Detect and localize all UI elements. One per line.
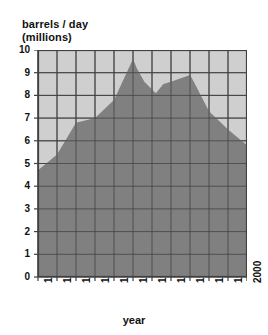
y-axis-tick-label: 5 <box>8 158 30 169</box>
y-axis-tick-label: 10 <box>8 44 30 55</box>
y-axis-tick-label: 1 <box>8 248 30 259</box>
y-axis-title-line2: (millions) <box>22 31 72 43</box>
y-axis-tick-label: 6 <box>8 135 30 146</box>
plot-area <box>33 50 242 277</box>
plot-svg <box>33 50 247 283</box>
area-chart: barrels / day (millions) 109876543210 19… <box>0 0 268 335</box>
y-axis-title-line1: barrels / day <box>22 18 88 30</box>
x-axis-tick-label: 2000 <box>252 261 263 283</box>
y-axis-tick-label: 7 <box>8 112 30 123</box>
y-axis-tick-label: 9 <box>8 67 30 78</box>
y-axis-tick-label: 4 <box>8 180 30 191</box>
y-axis-tick-label: 8 <box>8 89 30 100</box>
y-axis-tick-label: 0 <box>8 271 30 282</box>
y-axis-tick-label: 2 <box>8 226 30 237</box>
x-axis-title: year <box>0 314 268 326</box>
y-axis-tick-label: 3 <box>8 203 30 214</box>
